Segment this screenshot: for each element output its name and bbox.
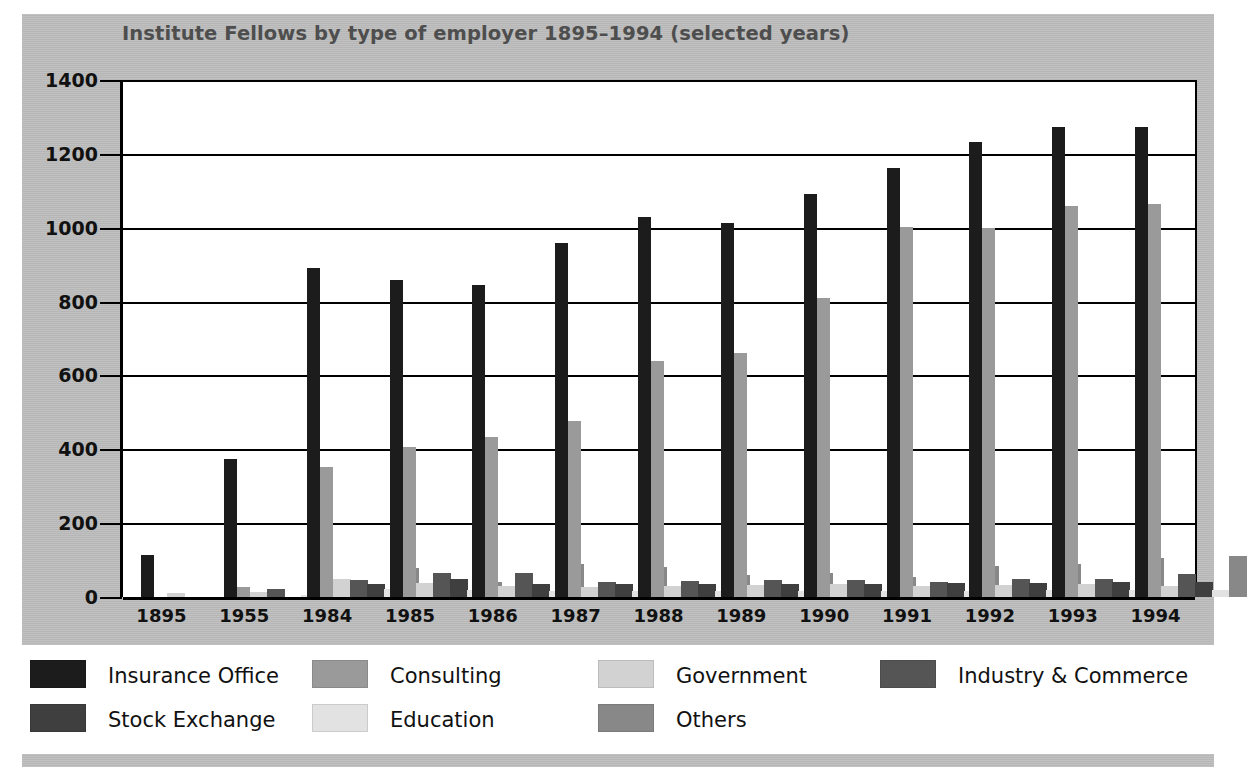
plot-inner [123, 80, 1195, 597]
y-tick-mark [100, 375, 122, 377]
y-tick-label: 200 [26, 512, 98, 534]
bar [1052, 127, 1065, 597]
bar [900, 227, 913, 597]
bar [930, 582, 948, 597]
bar [1148, 204, 1161, 597]
x-tick-label: 1987 [551, 605, 601, 626]
chart-title: Institute Fellows by type of employer 18… [122, 22, 850, 45]
bar [433, 573, 451, 597]
bar-group [537, 80, 620, 597]
legend-swatch-icon [30, 660, 86, 688]
x-tick-label: 1986 [468, 605, 518, 626]
bar-group [454, 80, 537, 597]
bar [598, 582, 616, 597]
bar [1065, 206, 1078, 597]
x-tick-label: 1955 [219, 605, 269, 626]
bar [1078, 584, 1096, 597]
y-tick-label: 800 [26, 291, 98, 313]
bar [1212, 590, 1230, 597]
bar [913, 586, 931, 597]
bar [1095, 579, 1113, 597]
bar [267, 589, 285, 597]
legend-label: Others [676, 700, 747, 740]
y-tick-mark [100, 523, 122, 525]
bar [307, 268, 320, 597]
x-tick-label: 1895 [136, 605, 186, 626]
bar [982, 228, 995, 597]
x-tick-label: 1985 [385, 605, 435, 626]
bar [568, 421, 581, 597]
y-tick-label: 1400 [26, 69, 98, 91]
bar [638, 217, 651, 597]
bar-group [703, 80, 786, 597]
y-tick-mark [100, 597, 122, 599]
bar [333, 579, 351, 597]
bar [1135, 127, 1148, 597]
x-tick-label: 1994 [1131, 605, 1181, 626]
legend-swatch-icon [880, 660, 936, 688]
bar [995, 585, 1013, 597]
bar [804, 194, 817, 597]
bar [224, 459, 237, 597]
bar [250, 592, 268, 597]
bar-group [786, 80, 869, 597]
legend-label: Education [390, 700, 495, 740]
legend-swatch-icon [312, 660, 368, 688]
bar [681, 581, 699, 597]
x-tick-label: 1989 [716, 605, 766, 626]
bar [498, 586, 516, 597]
bar [581, 587, 599, 597]
bar [817, 298, 830, 597]
chart-legend: Insurance OfficeConsultingGovernmentIndu… [22, 656, 1214, 742]
bar [887, 168, 900, 597]
bar [651, 361, 664, 597]
y-tick-label: 0 [26, 586, 98, 608]
bar [721, 223, 734, 597]
plot-area [120, 80, 1197, 597]
bar-group [1117, 80, 1200, 597]
x-tick-label: 1992 [965, 605, 1015, 626]
y-tick-mark [100, 228, 122, 230]
bar-group [620, 80, 703, 597]
bar-group [206, 80, 289, 597]
gridline-0 [123, 597, 1195, 600]
y-tick-mark [100, 154, 122, 156]
bar [390, 280, 403, 597]
y-tick-label: 1000 [26, 217, 98, 239]
bar-group [951, 80, 1034, 597]
bar [237, 587, 250, 597]
x-tick-label: 1991 [882, 605, 932, 626]
bar [830, 584, 848, 597]
legend-row-1: Insurance OfficeConsultingGovernmentIndu… [22, 656, 1214, 696]
bar [485, 437, 498, 597]
bar [1195, 582, 1213, 598]
x-tick-label: 1993 [1048, 605, 1098, 626]
bar [1229, 556, 1247, 597]
bottom-decorative-strip [22, 754, 1214, 767]
bar [664, 586, 682, 597]
bar-group [1034, 80, 1117, 597]
bar [416, 583, 434, 597]
x-tick-label: 1984 [302, 605, 352, 626]
bar [167, 593, 185, 597]
bar-group [289, 80, 372, 597]
bar-group [372, 80, 455, 597]
bar [969, 142, 982, 597]
bar-group [869, 80, 952, 597]
bar [1012, 579, 1030, 597]
y-tick-mark [100, 302, 122, 304]
bar [1161, 586, 1179, 597]
legend-label: Government [676, 656, 807, 696]
bar [350, 580, 368, 597]
y-tick-mark [100, 449, 122, 451]
legend-swatch-icon [30, 704, 86, 732]
legend-swatch-icon [312, 704, 368, 732]
legend-row-2: Stock ExchangeEducationOthers [22, 700, 1214, 740]
x-tick-label: 1988 [633, 605, 683, 626]
legend-label: Consulting [390, 656, 502, 696]
y-tick-label: 400 [26, 438, 98, 460]
bar [1178, 574, 1196, 597]
bar [555, 243, 568, 597]
bar [747, 585, 765, 597]
